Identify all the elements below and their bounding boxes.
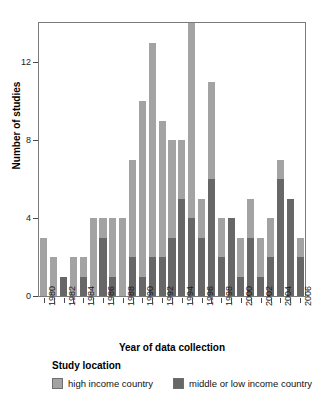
- bar-2001: [247, 199, 254, 297]
- bar-segment-high-income: [188, 23, 195, 218]
- chart-container: Number of studies 04812 Year of data col…: [0, 0, 328, 401]
- bar-segment-middle-low-income: [178, 199, 185, 297]
- x-tick-mark: [142, 298, 143, 303]
- chart-legend: Study location high income country middl…: [52, 360, 318, 389]
- x-tick-mark: [123, 298, 124, 303]
- bar-1998: [218, 218, 225, 296]
- bar-segment-high-income: [237, 238, 244, 277]
- bar-1995: [188, 23, 195, 296]
- y-axis-title: Number of studies: [11, 66, 22, 186]
- x-tick-mark: [162, 298, 163, 303]
- x-axis-title: Year of data collection: [38, 342, 306, 353]
- x-tick-label: 1986: [107, 286, 116, 306]
- bar-segment-high-income: [178, 140, 185, 199]
- bar-segment-high-income: [277, 160, 284, 180]
- bar-1989: [129, 160, 136, 297]
- x-tick-mark: [83, 298, 84, 303]
- legend-title: Study location: [52, 360, 318, 371]
- bar-1985: [90, 218, 97, 296]
- legend-label: middle or low income country: [189, 378, 312, 389]
- x-tick-mark: [251, 298, 252, 303]
- light-gray-swatch-icon: [52, 378, 63, 389]
- bar-segment-middle-low-income: [277, 179, 284, 296]
- bar-segment-high-income: [297, 238, 304, 258]
- x-tick-mark: [152, 298, 153, 303]
- y-tick-label: 12: [21, 58, 31, 67]
- bar-2005: [287, 199, 294, 297]
- x-tick-label: 2002: [265, 286, 274, 306]
- bar-segment-middle-low-income: [188, 218, 195, 296]
- bar-segment-high-income: [90, 218, 97, 296]
- bar-1992: [159, 121, 166, 297]
- bar-segment-high-income: [208, 82, 215, 180]
- bar-1997: [208, 82, 215, 297]
- bar-1994: [178, 140, 185, 296]
- x-tick-mark: [221, 298, 222, 303]
- bar-1986: [99, 218, 106, 296]
- bar-1987: [109, 218, 116, 296]
- x-tick-mark: [93, 298, 94, 303]
- bar-1996: [198, 199, 205, 297]
- bar-segment-high-income: [267, 218, 274, 257]
- bar-segment-high-income: [247, 199, 254, 238]
- x-tick-mark: [202, 298, 203, 303]
- bar-segment-high-income: [149, 43, 156, 258]
- y-tick-label: 4: [26, 214, 31, 223]
- dark-gray-swatch-icon: [173, 378, 184, 389]
- x-tick-mark: [44, 298, 45, 303]
- bar-segment-high-income: [80, 257, 87, 277]
- x-tick-mark: [261, 298, 262, 303]
- x-tick-label: 2006: [304, 286, 313, 306]
- legend-items: high income country middle or low income…: [52, 378, 318, 389]
- x-tick-mark: [271, 298, 272, 303]
- legend-item-high-income: high income country: [52, 378, 153, 389]
- x-tick-mark: [73, 298, 74, 303]
- bar-2004: [277, 160, 284, 297]
- bar-segment-high-income: [159, 121, 166, 258]
- x-tick-label: 1994: [186, 286, 195, 306]
- x-tick-mark: [54, 298, 55, 303]
- x-tick-mark: [280, 298, 281, 303]
- bar-segment-high-income: [129, 160, 136, 258]
- bar-1991: [149, 43, 156, 297]
- x-tick-label: 2000: [245, 286, 254, 306]
- x-tick-mark: [172, 298, 173, 303]
- x-tick-mark: [103, 298, 104, 303]
- x-tick-label: 1984: [87, 286, 96, 306]
- bar-segment-high-income: [109, 218, 116, 277]
- x-tick-mark: [231, 298, 232, 303]
- bar-segment-middle-low-income: [287, 199, 294, 297]
- bar-1993: [168, 140, 175, 296]
- bar-segment-high-income: [218, 218, 225, 257]
- bar-2003: [267, 218, 274, 296]
- x-tick-label: 1990: [146, 286, 155, 306]
- bar-segment-middle-low-income: [228, 218, 235, 296]
- bar-segment-high-income: [168, 140, 175, 238]
- y-axis: Number of studies 04812: [0, 0, 38, 401]
- bar-segment-high-income: [119, 218, 126, 296]
- bar-segment-high-income: [99, 218, 106, 238]
- x-tick-label: 2004: [284, 286, 293, 306]
- bar-segment-middle-low-income: [208, 179, 215, 296]
- legend-label: high income country: [68, 378, 153, 389]
- x-tick-label: 1980: [48, 286, 57, 306]
- bar-1999: [228, 218, 235, 296]
- bar-1988: [119, 218, 126, 296]
- x-tick-mark: [64, 298, 65, 303]
- bar-1990: [139, 101, 146, 296]
- x-tick-label: 1998: [225, 286, 234, 306]
- bar-segment-high-income: [257, 238, 264, 277]
- x-tick-mark: [192, 298, 193, 303]
- y-tick-label: 8: [26, 136, 31, 145]
- x-tick-mark: [133, 298, 134, 303]
- x-tick-mark: [182, 298, 183, 303]
- plot-area: [39, 23, 305, 296]
- x-tick-label: 1992: [166, 286, 175, 306]
- legend-item-middle-low-income: middle or low income country: [173, 378, 312, 389]
- bar-segment-high-income: [198, 199, 205, 238]
- x-tick-label: 1988: [127, 286, 136, 306]
- x-tick-mark: [211, 298, 212, 303]
- bar-segment-high-income: [139, 101, 146, 277]
- x-tick-mark: [290, 298, 291, 303]
- x-tick-mark: [241, 298, 242, 303]
